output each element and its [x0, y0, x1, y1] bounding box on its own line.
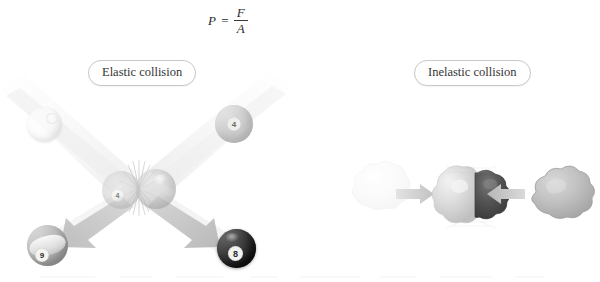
formula-numerator: F	[234, 6, 248, 20]
ball-contact-left-number: 4	[111, 189, 124, 202]
inelastic-collision-label: Inelastic collision	[414, 60, 531, 86]
merged-mass-light-half	[432, 166, 477, 223]
ball-contact-left: 4	[102, 171, 140, 209]
eight-ball-highlight	[226, 233, 239, 242]
merge-impact-burst	[446, 166, 496, 228]
elastic-collision-label: Elastic collision	[88, 60, 196, 86]
inelastic-collision-vectors	[0, 0, 600, 282]
figure-canvas: P = F A Elastic collision Inelastic coll…	[0, 0, 600, 282]
arrow-left-to-center	[396, 184, 434, 204]
formula-fraction: F A	[234, 6, 248, 36]
gray-ball-number: 4	[227, 117, 241, 131]
striped-ball-outgoing: 9	[27, 225, 68, 266]
cue-ball-incoming	[27, 107, 62, 142]
bottom-scan-artifacts	[0, 272, 600, 282]
arrow-right-to-center	[487, 184, 525, 204]
merged-mass-dark-half	[475, 170, 510, 219]
eight-ball-number: 8	[228, 246, 243, 261]
formula-lhs: P	[208, 13, 216, 29]
ball-contact-right-highlight	[154, 174, 167, 185]
eight-ball-outgoing: 8	[217, 229, 256, 268]
cue-ball-highlight	[46, 113, 58, 124]
clay-lump-right	[532, 166, 595, 219]
ball-contact-right	[136, 169, 176, 209]
pressure-formula: P = F A	[208, 6, 248, 36]
gray-ball-incoming: 4	[215, 105, 253, 143]
striped-ball-number: 9	[35, 248, 49, 262]
formula-equals: =	[221, 13, 229, 29]
formula-denominator: A	[234, 21, 248, 35]
elastic-collision-vectors	[0, 0, 600, 282]
clay-lump-left	[352, 161, 410, 209]
